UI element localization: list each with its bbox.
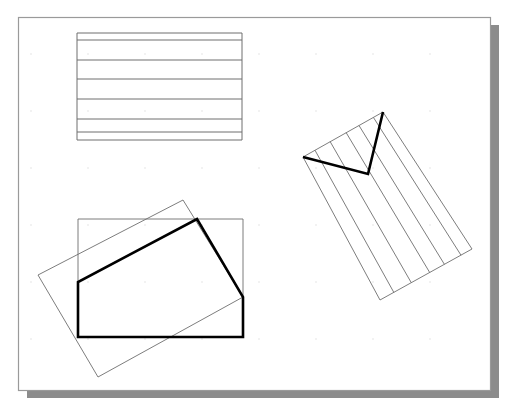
grid-dot [258,53,259,54]
grid-dot [87,338,88,339]
grid-dot [201,281,202,282]
grid-dot [315,224,316,225]
grid-dot [144,281,145,282]
grid-dot [144,110,145,111]
grid-dot [144,338,145,339]
grid-dot [258,281,259,282]
grid-dot [372,281,373,282]
grid-dot [372,338,373,339]
grid-dot [372,53,373,54]
grid-dot [144,167,145,168]
grid-dot [201,53,202,54]
grid-dot [144,224,145,225]
grid-dot [201,338,202,339]
grid-dot [87,167,88,168]
grid-dot [30,281,31,282]
grid-dot [315,53,316,54]
grid-dot [258,110,259,111]
page-sheet-border [19,18,491,391]
grid-dot [258,338,259,339]
grid-dot [315,338,316,339]
grid-dot [429,167,430,168]
grid-dot [30,224,31,225]
grid-dot [87,224,88,225]
figure-svg [0,0,516,411]
grid-dot [315,110,316,111]
grid-dot [429,110,430,111]
grid-dot [30,53,31,54]
figure-canvas [0,0,516,411]
grid-dot [87,53,88,54]
grid-dot [30,338,31,339]
grid-dot [315,281,316,282]
grid-dot [258,224,259,225]
grid-dot [30,110,31,111]
grid-dot [30,167,31,168]
grid-dot [87,281,88,282]
grid-dot [201,110,202,111]
grid-dot [201,167,202,168]
grid-dot [429,224,430,225]
grid-dot [372,110,373,111]
grid-dot [372,167,373,168]
page-sheet-layer [19,18,491,391]
grid-dot [429,338,430,339]
grid-dot [429,53,430,54]
grid-dot [258,167,259,168]
grid-dot [144,53,145,54]
grid-dot [87,110,88,111]
grid-dot [315,167,316,168]
grid-dot [429,281,430,282]
grid-dot [372,224,373,225]
